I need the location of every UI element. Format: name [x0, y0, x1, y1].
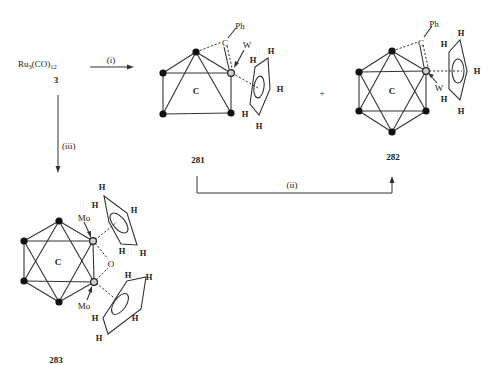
h-label: H [441, 94, 448, 104]
h-label: H [146, 272, 153, 282]
compound-number-282: 282 [386, 152, 400, 162]
plus-sign: + [319, 88, 324, 98]
molybdenum-atom [90, 238, 97, 245]
h-label: H [92, 313, 99, 323]
ph-label-281: Ph [235, 21, 245, 31]
h-label: H [250, 55, 257, 65]
cluster-label-281: C [193, 86, 200, 96]
h-label: H [140, 248, 147, 258]
h-label: H [268, 46, 275, 56]
h-label: H [99, 182, 106, 192]
molybdenum-atom [91, 279, 98, 286]
reactant-number: 3 [54, 75, 59, 85]
h-label: H [92, 200, 99, 210]
metal-label-283-bottom: Mo [78, 301, 91, 311]
ph-label-282: Ph [429, 19, 439, 29]
compound-281 [159, 28, 270, 118]
step-i-label: (i) [107, 55, 116, 65]
compound-number-281: 281 [191, 155, 205, 165]
h-label: H [242, 109, 249, 119]
compound-number-283: 283 [49, 355, 63, 365]
h-label: H [132, 313, 139, 323]
bridge-o-283: O [108, 259, 115, 269]
h-label: H [131, 205, 138, 215]
h-label: H [458, 106, 465, 116]
arrow-step-iii [56, 95, 61, 173]
h-label: H [125, 270, 132, 280]
h-label: H [277, 84, 284, 94]
step-iii-label: (iii) [62, 141, 76, 151]
h-label: H [119, 246, 126, 256]
arrow-step-i [90, 65, 134, 70]
h-label: H [441, 39, 448, 49]
h-label: H [256, 121, 263, 131]
metal-label-282: W [435, 83, 444, 93]
reactant-formula: Ru3(CO)12 [18, 59, 57, 70]
metal-label-281: W [243, 40, 252, 50]
metal-label-283-top: Mo [78, 213, 91, 223]
compound-282 [355, 26, 467, 136]
h-label: H [474, 66, 481, 76]
cluster-label-282: C [389, 86, 396, 96]
bridge-c-282: C [418, 38, 424, 48]
tungsten-atom [228, 70, 235, 77]
tungsten-atom [423, 68, 430, 75]
h-label: H [96, 333, 103, 343]
bridge-c-281: C [222, 38, 228, 48]
reaction-scheme: Ru3(CO)12 3 (i) (iii) [0, 0, 499, 365]
h-label: H [458, 28, 465, 38]
cluster-label-283: C [55, 257, 62, 267]
step-ii-label: (ii) [287, 180, 298, 190]
